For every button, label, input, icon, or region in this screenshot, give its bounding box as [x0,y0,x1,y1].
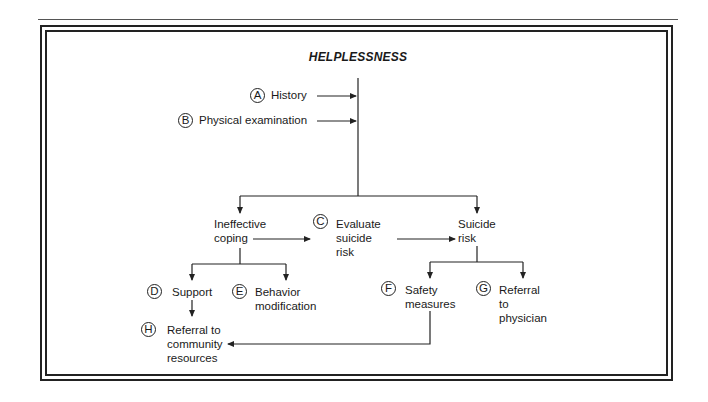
step-marker-h: H [141,322,156,337]
node-evaluate-suicide-risk: Evaluate suicide risk [336,217,381,259]
step-marker-c: C [313,214,328,229]
node-history: History [271,88,307,102]
step-marker-g: G [476,281,491,296]
step-marker-a: A [250,88,265,103]
node-physical-examination: Physical examination [199,113,307,127]
step-marker-b: B [178,113,193,128]
node-behavior-modification: Behavior modification [255,285,316,313]
node-ineffective-coping: Ineffective coping [214,217,266,245]
node-referral-to-physician: Referral to physician [499,283,547,325]
node-suicide-risk: Suicide risk [458,217,496,245]
step-marker-f: F [381,281,396,296]
node-safety-measures: Safety measures [405,283,456,311]
node-referral-to-community-resources: Referral to community resources [167,323,223,365]
diagram-title: HELPLESSNESS [300,50,416,64]
node-support: Support [172,285,212,299]
step-marker-d: D [147,284,162,299]
step-marker-e: E [232,284,247,299]
